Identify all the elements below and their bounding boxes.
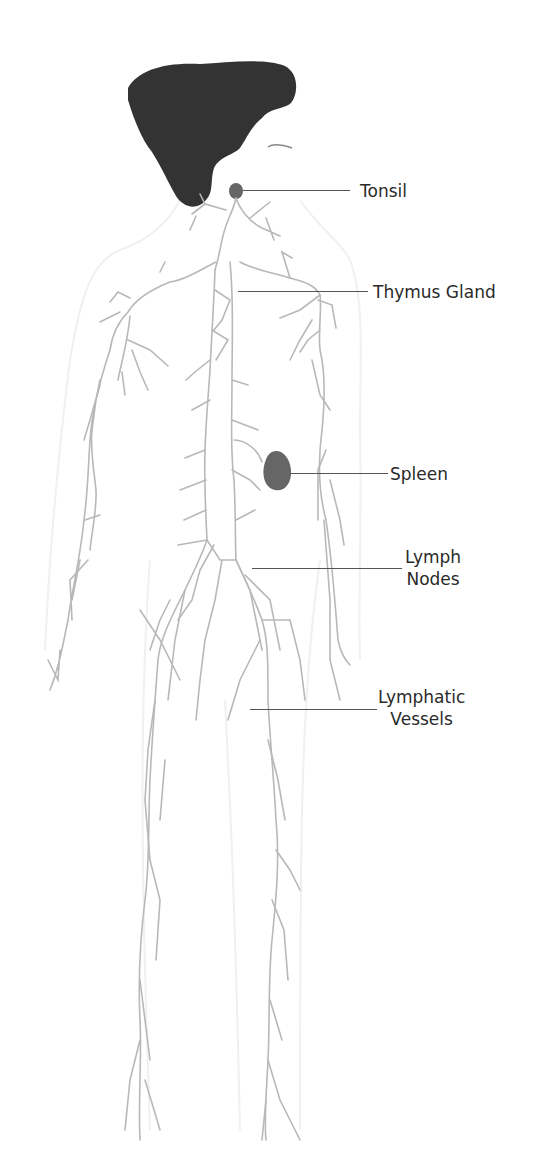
label-lymphatic-vessels-line2: Vessels [378, 708, 465, 730]
label-tonsil-text: Tonsil [360, 181, 407, 201]
lymphatic-vessels-leader-line [250, 709, 377, 710]
label-lymph-nodes: Lymph Nodes [405, 546, 461, 590]
thymus-leader-line [238, 291, 368, 292]
tonsil-organ [229, 183, 243, 199]
label-lymph-nodes-line2: Nodes [405, 568, 461, 590]
spleen-leader-line [291, 473, 388, 474]
spleen-organ [263, 451, 291, 490]
lymph-nodes-leader-line [252, 568, 402, 569]
label-thymus-gland: Thymus Gland [373, 281, 496, 303]
lymphatic-vessel-network [48, 194, 350, 1140]
label-lymphatic-vessels-line1: Lymphatic [378, 686, 465, 708]
lymphatic-system-figure [0, 0, 544, 1175]
hair-shape [128, 61, 296, 206]
label-tonsil: Tonsil [360, 180, 407, 202]
label-lymphatic-vessels: Lymphatic Vessels [378, 686, 465, 730]
label-spleen-text: Spleen [390, 464, 448, 484]
body-outline [45, 200, 361, 1130]
label-lymph-nodes-line1: Lymph [405, 546, 461, 568]
label-thymus-text: Thymus Gland [373, 282, 496, 302]
label-spleen: Spleen [390, 463, 448, 485]
tonsil-leader-line [243, 190, 350, 191]
ear-mark [268, 145, 292, 148]
